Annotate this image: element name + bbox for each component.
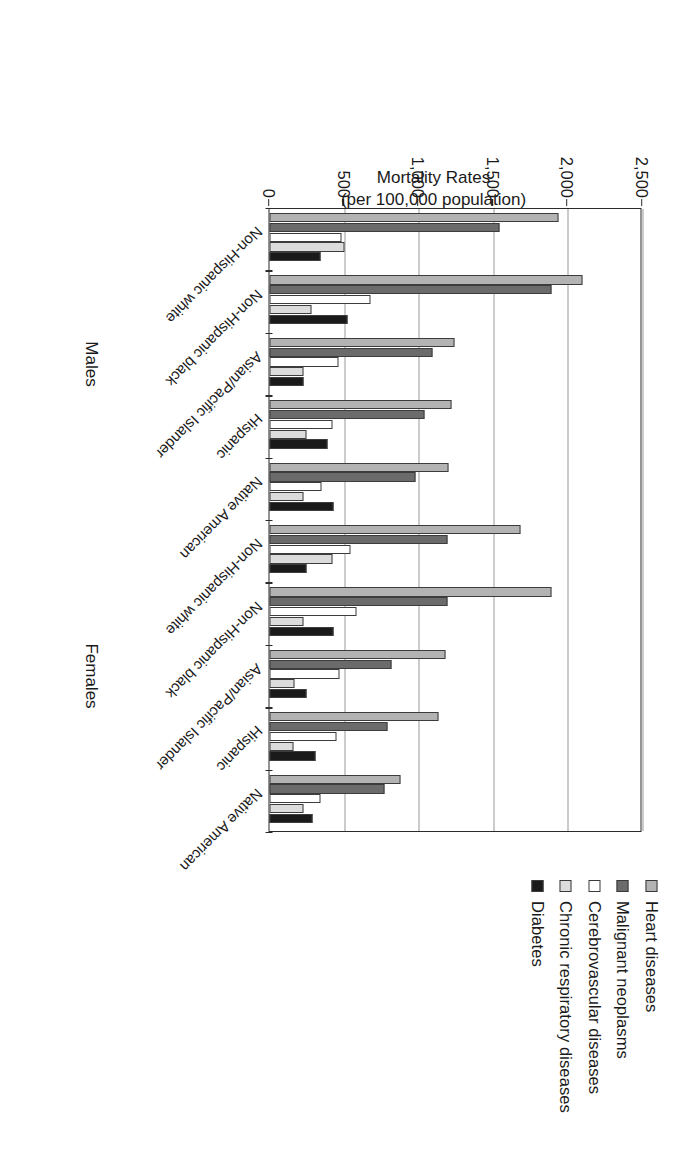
bar [269, 554, 332, 563]
bar-series-container [269, 209, 640, 831]
plot-area [268, 208, 641, 832]
legend-item-label: Malignant neoplasms [614, 901, 631, 1059]
bar [269, 597, 447, 606]
bar [269, 348, 432, 357]
bar [269, 367, 303, 376]
gridline [642, 209, 643, 831]
legend-item-label: Chronic respiratory diseases [557, 901, 574, 1113]
bar [269, 463, 448, 472]
legend-swatch-icon [531, 880, 543, 892]
bar [269, 535, 447, 544]
bar [269, 669, 339, 678]
bar [269, 650, 445, 659]
bar [269, 482, 321, 491]
legend-swatch-icon [616, 880, 628, 892]
bar [269, 275, 582, 284]
bar [269, 617, 303, 626]
bar [269, 377, 303, 386]
legend-swatch-icon [559, 880, 571, 892]
bar [269, 400, 451, 409]
group-axis-labels: MalesFemales [69, 208, 99, 832]
bar [269, 472, 415, 481]
category-tick-mark [265, 645, 272, 646]
bar [269, 814, 312, 823]
category-tick-mark [265, 458, 272, 459]
bar [269, 794, 320, 803]
category-tick-mark [265, 770, 272, 771]
bar [269, 252, 320, 261]
legend-item-label: Heart diseases [643, 901, 660, 1012]
category-tick-mark [265, 333, 272, 334]
bar [269, 545, 350, 554]
bar [269, 492, 303, 501]
bar [269, 689, 306, 698]
bar [269, 712, 438, 721]
bar [269, 587, 551, 596]
bar [269, 627, 333, 636]
bar [269, 660, 391, 669]
bar [269, 338, 454, 347]
category-tick-mark [265, 520, 272, 521]
legend-item-label: Diabetes [529, 901, 546, 967]
category-axis-label: Asian/Pacific Islander [153, 349, 265, 461]
bar [269, 439, 327, 448]
bar [269, 213, 558, 222]
category-axis-label: Hispanic [214, 724, 265, 775]
chart-figure: 05001,0001,5002,0002,500 Mortality Rates… [0, 0, 677, 1176]
bar [269, 430, 306, 439]
legend-item-label: Cerebrovascular diseases [586, 901, 603, 1094]
category-tick-mark [265, 395, 272, 396]
legend: Heart diseasesMalignant neoplasmsCerebro… [529, 880, 660, 1113]
bar [269, 804, 303, 813]
bar [269, 223, 499, 232]
bar [269, 775, 400, 784]
legend-item[interactable]: Heart diseases [643, 880, 660, 1113]
value-axis-title-line1: Mortality Rates [376, 168, 489, 187]
category-tick-mark [265, 832, 272, 833]
group-axis-label: Females [82, 643, 99, 708]
bar [269, 722, 387, 731]
bar [269, 525, 520, 534]
bar [269, 315, 347, 324]
value-axis-title: Mortality Rates (per 100,000 population) [218, 167, 648, 211]
bar [269, 242, 344, 251]
bar [269, 305, 311, 314]
bar [269, 751, 315, 760]
category-tick-mark [265, 707, 272, 708]
category-axis-label: Native American [177, 786, 265, 874]
category-tick-mark [265, 270, 272, 271]
bar [269, 607, 356, 616]
legend-item[interactable]: Diabetes [529, 880, 546, 1113]
bar [269, 502, 333, 511]
legend-item[interactable]: Chronic respiratory diseases [557, 880, 574, 1113]
category-axis-labels: Non-Hispanic whiteNon-Hispanic blackAsia… [115, 208, 265, 832]
category-axis-label: Asian/Pacific Islander [153, 661, 265, 773]
group-axis-label: Males [82, 341, 99, 386]
bar [269, 295, 370, 304]
bar [269, 285, 551, 294]
legend-item[interactable]: Malignant neoplasms [614, 880, 631, 1113]
category-axis-label: Hispanic [214, 412, 265, 463]
bar [269, 742, 293, 751]
bar [269, 564, 306, 573]
bar [269, 784, 384, 793]
bar [269, 679, 294, 688]
bar [269, 357, 338, 366]
bar [269, 410, 424, 419]
bar [269, 420, 332, 429]
legend-swatch-icon [588, 880, 600, 892]
bar [269, 732, 336, 741]
legend-item[interactable]: Cerebrovascular diseases [586, 880, 603, 1113]
legend-swatch-icon [645, 880, 657, 892]
category-tick-mark [265, 208, 272, 209]
bar [269, 233, 341, 242]
category-tick-mark [265, 582, 272, 583]
